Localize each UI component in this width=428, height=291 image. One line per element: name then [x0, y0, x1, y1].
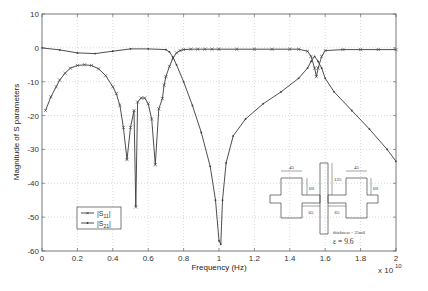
marker-dot: [222, 199, 224, 201]
y-tick-label: -50: [27, 213, 39, 222]
y-tick-label: 10: [30, 10, 39, 19]
series-s11: [44, 48, 398, 209]
y-tick-label: -40: [27, 179, 39, 188]
svg-text:×: ×: [86, 210, 90, 216]
marker-dot: [220, 243, 222, 245]
marker-dot: [321, 67, 323, 69]
marker-x: [97, 67, 100, 70]
marker-dot: [324, 77, 326, 79]
dim-label-width-left: 45: [289, 165, 295, 170]
marker-x: [111, 85, 114, 88]
x-multiplier-exp: 10: [395, 263, 402, 269]
marker-dot: [369, 128, 371, 130]
marker-dot: [386, 149, 388, 151]
marker-x: [63, 72, 66, 75]
marker-dot: [172, 56, 174, 58]
marker-dot: [225, 162, 227, 164]
marker-dot: [232, 135, 234, 137]
epsilon-label: ε = 9.6: [333, 237, 354, 246]
marker-dot: [130, 48, 132, 50]
y-tick-label: -10: [27, 78, 39, 87]
x-multiplier: x 10 10: [378, 263, 402, 275]
x-tick-label: 0.4: [107, 254, 119, 263]
s-parameter-chart: 00.20.40.60.811.21.41.61.82100-10-20-30-…: [0, 0, 428, 291]
marker-dot: [176, 64, 178, 66]
dim-label-height-right: 60: [373, 186, 379, 191]
center-stub: [320, 163, 328, 234]
x-tick-label: 0.8: [178, 254, 190, 263]
marker-x: [104, 74, 107, 77]
marker-dot: [192, 105, 194, 107]
y-tick-label: -60: [27, 247, 39, 256]
y-tick-label: -30: [27, 145, 39, 154]
marker-dot: [245, 118, 247, 120]
x-axis-label: Frequency (Hz): [191, 263, 246, 272]
dim-label-gap-right: 65: [335, 210, 341, 215]
marker-dot: [94, 53, 96, 55]
marker-x: [55, 85, 58, 88]
marker-dot: [314, 55, 316, 57]
dim-label-width-right: 45: [354, 165, 360, 170]
marker-dot: [298, 77, 300, 79]
marker-dot: [112, 50, 114, 52]
x-tick-label: 1: [217, 254, 222, 263]
x-tick-label: 1.6: [320, 254, 332, 263]
marker-x: [175, 51, 178, 54]
marker-dot: [317, 61, 319, 63]
marker-dot: [218, 240, 220, 242]
x-tick-label: 1.2: [249, 254, 261, 263]
legend: × |S11| |S21|: [77, 207, 121, 229]
marker-dot: [280, 91, 282, 93]
marker-dot: [147, 48, 149, 50]
marker-dot: [351, 110, 353, 112]
marker-x: [58, 78, 61, 81]
marker-dot: [262, 103, 264, 105]
marker-dot: [333, 91, 335, 93]
dim-label-stub-length: 125: [334, 177, 342, 182]
marker-dot: [310, 61, 312, 63]
filter-layout-inset: 45 60 125 45 60 65 65 thickness = 25mil …: [270, 163, 379, 246]
y-axis-label: Magnitude of S parameters: [12, 84, 21, 181]
x-multiplier-label: x 10: [378, 266, 394, 275]
marker-dot: [215, 199, 217, 201]
dim-label-height-left: 60: [309, 186, 315, 191]
marker-dot: [307, 67, 309, 69]
marker-dot: [183, 81, 185, 83]
dim-label-gap-left: 65: [309, 210, 315, 215]
y-tick-label: -20: [27, 112, 39, 121]
marker-dot: [59, 49, 61, 51]
x-tick-label: 0: [40, 254, 45, 263]
y-tick-label: 0: [35, 44, 40, 53]
marker-dot: [169, 51, 171, 53]
marker-dot: [165, 49, 167, 51]
marker-dot: [200, 132, 202, 134]
thickness-label: thickness = 25mil: [333, 230, 366, 235]
x-tick-label: 1.4: [284, 254, 296, 263]
marker-dot: [77, 52, 79, 54]
marker-dot: [209, 165, 211, 167]
x-tick-label: 0.6: [143, 254, 155, 263]
x-tick-label: 2: [394, 254, 399, 263]
x-tick-label: 1.8: [355, 254, 367, 263]
x-tick-label: 0.2: [72, 254, 84, 263]
